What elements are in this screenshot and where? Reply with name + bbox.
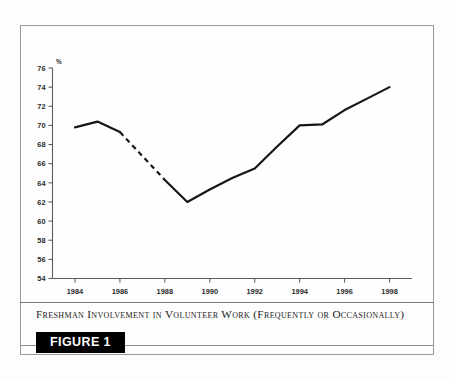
figure-number-badge: FIGURE 1 xyxy=(36,332,125,353)
figure-outer-frame xyxy=(20,25,434,355)
figure-page: 545658606264666870727476 198419861988199… xyxy=(0,0,454,380)
figure-caption: Freshman Involvement in Volunteer Work (… xyxy=(36,308,432,320)
caption-divider-rule xyxy=(20,302,434,303)
